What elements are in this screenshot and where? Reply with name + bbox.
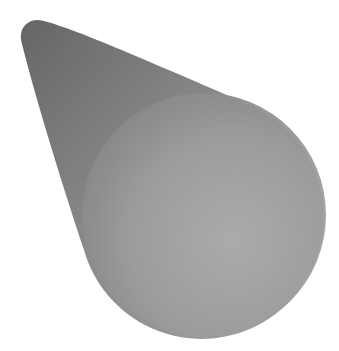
cone-graphic bbox=[0, 0, 339, 351]
cone-image bbox=[0, 0, 339, 351]
texture-overlay bbox=[21, 20, 324, 339]
